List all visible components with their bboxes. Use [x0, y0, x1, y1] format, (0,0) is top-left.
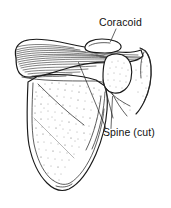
scapula-diagram: Coracoid Spine (cut): [0, 0, 171, 208]
coracoid-process: [85, 39, 121, 53]
glenoid-outline: [103, 54, 132, 93]
anatomical-figure: Coracoid Spine (cut): [0, 0, 171, 208]
label-coracoid: Coracoid: [99, 16, 142, 28]
coracoid-outline: [85, 39, 121, 53]
label-spine-cut: Spine (cut): [103, 126, 155, 138]
